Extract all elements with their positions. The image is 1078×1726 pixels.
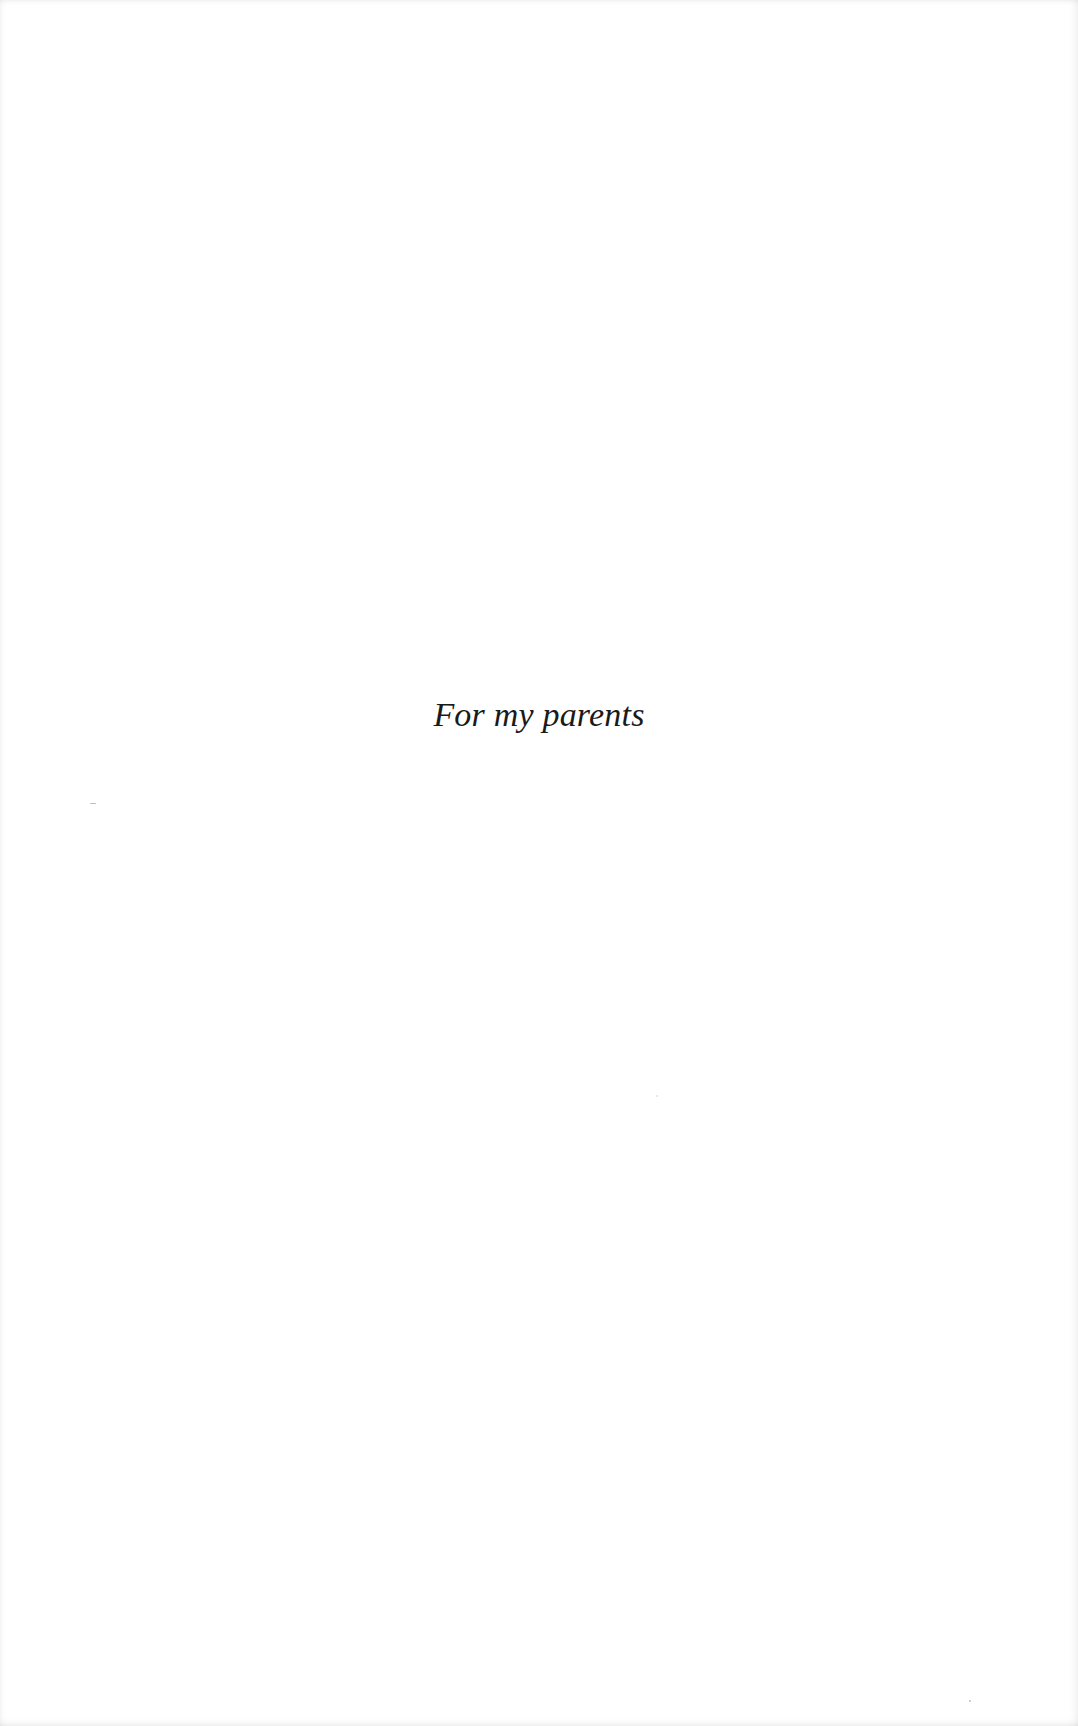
dedication-text: For my parents xyxy=(0,691,1078,739)
scan-speck xyxy=(656,1095,658,1097)
scan-speck xyxy=(969,1700,971,1702)
scan-speck xyxy=(90,803,96,804)
book-page: For my parents xyxy=(0,0,1078,1726)
